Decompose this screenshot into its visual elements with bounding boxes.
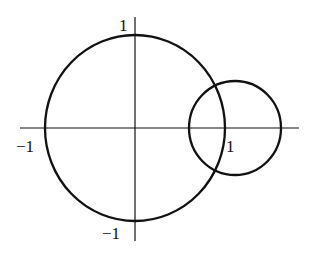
diagram-canvas: 1 −1 −1 1 (0, 0, 312, 255)
x-label-left: −1 (16, 137, 34, 156)
y-label-top: 1 (119, 16, 128, 35)
x-label-right: 1 (226, 137, 235, 156)
y-label-bottom: −1 (102, 224, 120, 243)
